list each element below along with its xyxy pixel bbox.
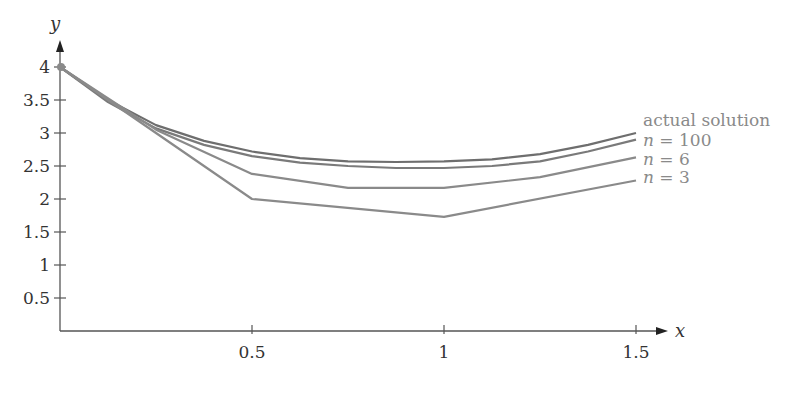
legend-n-100-value: = 100: [654, 130, 712, 150]
legend-actual-solution: actual solution: [643, 110, 770, 130]
y-tick-label: 3: [39, 123, 50, 143]
y-axis-label: y: [49, 13, 61, 34]
euler-approximation-chart: y x 0.511.522.533.54 0.511.5 actual solu…: [0, 0, 806, 396]
y-tick-label: 2: [39, 189, 50, 209]
legend-n-3-value: = 3: [654, 167, 690, 187]
series-lines: [60, 67, 636, 217]
legend-n-6-var: n: [643, 149, 654, 169]
x-axis-label: x: [675, 320, 685, 341]
y-tick-label: 0.5: [23, 288, 50, 308]
x-tick-label: 1: [439, 342, 450, 362]
initial-point-marker: [57, 63, 65, 71]
series-line-actual-solution: [60, 67, 636, 162]
series-line-n-3: [60, 67, 636, 217]
legend-n-3: n = 3: [643, 167, 690, 187]
y-axis-arrow-icon: [56, 40, 64, 52]
axes: y x: [49, 13, 685, 341]
y-tick-label: 4: [39, 57, 50, 77]
legend-n-3-var: n: [643, 167, 654, 187]
y-tick-label: 1: [39, 255, 50, 275]
legend: actual solution n = 100 n = 6 n = 3: [643, 110, 770, 187]
legend-n-6-value: = 6: [654, 149, 690, 169]
legend-n-6: n = 6: [643, 149, 690, 169]
x-axis-arrow-icon: [656, 327, 668, 335]
x-tick-label: 0.5: [238, 342, 265, 362]
legend-n-100-var: n: [643, 130, 654, 150]
y-tick-label: 1.5: [23, 222, 50, 242]
legend-n-100: n = 100: [643, 130, 711, 150]
y-tick-label: 3.5: [23, 90, 50, 110]
x-tick-label: 1.5: [622, 342, 649, 362]
y-tick-label: 2.5: [23, 156, 50, 176]
